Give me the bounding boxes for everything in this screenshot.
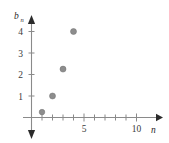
chart-container: 5 10 1 2 3 4 b n n: [0, 0, 169, 143]
y-tick-label-2: 2: [18, 70, 23, 80]
data-point: [39, 109, 45, 115]
x-axis-title: n: [151, 125, 156, 135]
data-point: [50, 93, 56, 99]
scatter-plot: 5 10 1 2 3 4 b n n: [0, 0, 169, 143]
y-tick-label-3: 3: [18, 49, 23, 59]
x-axis-arrow-icon: [156, 114, 163, 121]
y-axis-title-subscript: n: [21, 16, 24, 23]
x-tick-label-10: 10: [132, 124, 142, 134]
y-tick-label-1: 1: [18, 92, 23, 102]
y-axis-arrow-icon: [28, 15, 35, 24]
y-axis-arrow-down-icon: [28, 130, 35, 139]
data-point: [60, 66, 66, 72]
data-point: [71, 29, 77, 35]
x-tick-label-5: 5: [82, 124, 87, 134]
y-axis-title: b: [14, 11, 19, 21]
y-tick-label-4: 4: [18, 27, 23, 37]
